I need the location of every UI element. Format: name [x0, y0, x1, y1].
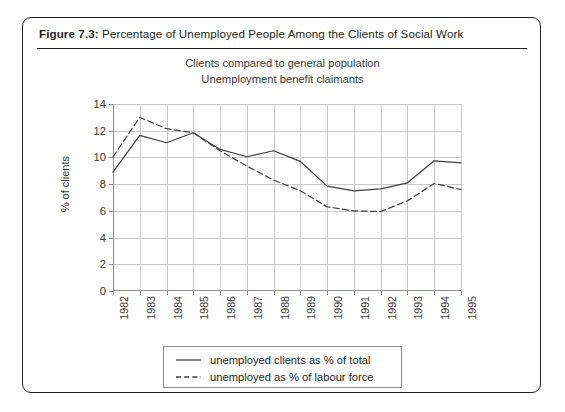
- legend-swatch-dashed-icon: [175, 372, 202, 382]
- legend-item-0: unemployed clients as % of total: [175, 351, 370, 368]
- y-tick-label: 10: [94, 151, 106, 163]
- plot-area: 02468101214 1982198319841985198619871988…: [113, 104, 461, 291]
- x-tick-mark: [247, 291, 248, 295]
- x-tick-label: 1994: [439, 296, 451, 320]
- x-tick-mark: [193, 291, 194, 295]
- x-tick-mark: [113, 291, 114, 295]
- y-tick-label: 8: [100, 178, 106, 190]
- gridline-vertical: [461, 104, 462, 291]
- x-tick-mark: [461, 291, 462, 295]
- y-tick-label: 4: [100, 232, 106, 244]
- x-tick-mark: [167, 291, 168, 295]
- chart-legend: unemployed clients as % of total unemplo…: [163, 346, 402, 388]
- y-tick-label: 14: [94, 98, 106, 110]
- x-tick-label: 1982: [118, 296, 130, 320]
- chart-subtitle: Clients compared to general population U…: [23, 56, 542, 87]
- y-tick-label: 6: [100, 205, 106, 217]
- x-tick-mark: [140, 291, 141, 295]
- series-line-1: [113, 117, 461, 211]
- x-tick-mark: [354, 291, 355, 295]
- x-tick-label: 1987: [252, 296, 264, 320]
- x-tick-label: 1988: [279, 296, 291, 320]
- legend-label-0: unemployed clients as % of total: [210, 354, 370, 366]
- x-tick-label: 1995: [466, 296, 478, 320]
- x-tick-label: 1992: [386, 296, 398, 320]
- figure-caption: Figure 7.3: Percentage of Unemployed Peo…: [39, 27, 526, 40]
- x-tick-mark: [300, 291, 301, 295]
- x-tick-mark: [381, 291, 382, 295]
- x-tick-mark: [327, 291, 328, 295]
- x-tick-label: 1986: [225, 296, 237, 320]
- x-tick-mark: [407, 291, 408, 295]
- y-axis-title: % of clients: [59, 156, 71, 212]
- legend-item-1: unemployed as % of labour force: [175, 368, 374, 385]
- chart-subtitle-line-1: Clients compared to general population: [23, 56, 542, 72]
- y-tick-label: 2: [100, 258, 106, 270]
- x-tick-label: 1985: [198, 296, 210, 320]
- x-tick-label: 1990: [332, 296, 344, 320]
- x-tick-label: 1989: [305, 296, 317, 320]
- x-tick-label: 1983: [145, 296, 157, 320]
- x-tick-label: 1993: [412, 296, 424, 320]
- x-tick-mark: [274, 291, 275, 295]
- figure-caption-text: Percentage of Unemployed People Among th…: [102, 27, 463, 40]
- x-tick-mark: [220, 291, 221, 295]
- figure-label: Figure 7.3:: [39, 27, 99, 40]
- legend-swatch-solid-icon: [175, 355, 202, 365]
- legend-label-1: unemployed as % of labour force: [210, 371, 374, 383]
- x-tick-label: 1984: [172, 296, 184, 320]
- figure-card: Figure 7.3: Percentage of Unemployed Peo…: [22, 17, 541, 393]
- y-tick-label: 0: [100, 285, 106, 297]
- series-layer: [113, 104, 461, 291]
- x-tick-label: 1991: [359, 296, 371, 320]
- y-tick-label: 12: [94, 125, 106, 137]
- chart-subtitle-line-2: Unemployment benefit claimants: [23, 72, 542, 88]
- series-line-0: [113, 133, 461, 191]
- x-tick-mark: [434, 291, 435, 295]
- caption-divider: [37, 48, 527, 49]
